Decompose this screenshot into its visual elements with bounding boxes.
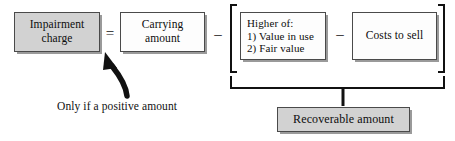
caption-only-if-positive: Only if a positive amount (57, 100, 177, 112)
box-higher-of-line-2: 1) Value in use (247, 30, 314, 43)
box-recoverable-amount-label: Recoverable amount (293, 112, 394, 126)
operator-equals: = (104, 26, 116, 41)
box-higher-of-content: Higher of: 1) Value in use 2) Fair value (241, 17, 314, 56)
box-carrying-amount-label: Carrying amount (142, 18, 184, 45)
box-carrying-amount: Carrying amount (120, 12, 205, 52)
operator-minus-1: – (212, 27, 224, 42)
impairment-charge-diagram: Impairment charge = Carrying amount – Hi… (0, 0, 455, 141)
bottom-bracket (231, 76, 444, 106)
box-impairment-charge-label: Impairment charge (30, 18, 85, 45)
box-recoverable-amount: Recoverable amount (277, 107, 410, 132)
operator-minus-2: – (334, 27, 346, 42)
curved-arrow-to-impairment-charge (103, 52, 127, 96)
box-higher-of-line-1: Higher of: (247, 17, 314, 30)
box-higher-of-line-3: 2) Fair value (247, 42, 314, 55)
box-costs-to-sell-label: Costs to sell (366, 29, 424, 43)
box-impairment-charge: Impairment charge (14, 12, 100, 52)
box-higher-of: Higher of: 1) Value in use 2) Fair value (240, 12, 326, 60)
box-costs-to-sell: Costs to sell (352, 12, 437, 60)
